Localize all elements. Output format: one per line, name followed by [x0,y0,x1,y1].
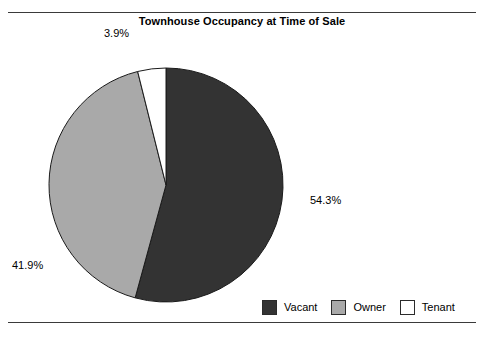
slice-label-tenant: 3.9% [104,27,129,39]
pie-chart-svg [0,0,484,341]
chart-figure: Townhouse Occupancy at Time of Sale 3.9%… [0,0,484,341]
slice-label-vacant: 54.3% [310,194,341,206]
legend-label-vacant: Vacant [284,300,317,315]
slice-label-owner: 41.9% [12,259,43,271]
legend-swatch-vacant-icon [262,300,277,315]
legend-label-tenant: Tenant [422,300,455,315]
legend-swatch-owner-icon [331,300,346,315]
pie-slice-group [49,68,283,302]
pie-chart-area: 3.9% 54.3% 41.9% [0,0,484,341]
legend-item-tenant[interactable]: Tenant [400,300,455,315]
chart-legend: Vacant Owner Tenant [262,300,455,315]
legend-item-owner[interactable]: Owner [331,300,385,315]
legend-item-vacant[interactable]: Vacant [262,300,317,315]
legend-swatch-tenant-icon [400,300,415,315]
bottom-divider-rule [8,322,476,323]
legend-label-owner: Owner [353,300,385,315]
